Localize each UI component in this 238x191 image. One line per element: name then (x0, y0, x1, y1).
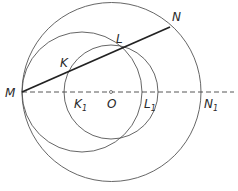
label-l: L (116, 32, 123, 46)
geometry-diagram: M N K L O K1 L1 N1 (0, 0, 238, 191)
label-n: N (172, 10, 181, 24)
label-o: O (107, 97, 116, 111)
label-k1: K1 (74, 97, 87, 113)
center-point-o (110, 91, 113, 94)
label-k: K (60, 56, 69, 70)
label-m: M (5, 86, 16, 100)
label-n1: N1 (204, 97, 218, 113)
chord-mn (22, 27, 170, 92)
label-l1: L1 (144, 97, 156, 113)
